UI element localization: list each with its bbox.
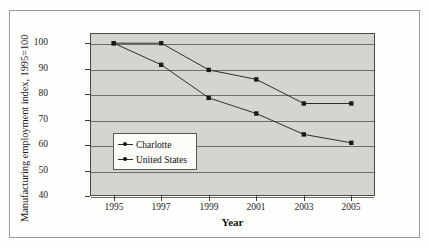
legend-marker-icon <box>118 155 133 164</box>
y-axis-tick-label: 40 <box>22 190 48 200</box>
x-axis-tick-label: 1997 <box>141 202 181 212</box>
y-axis-tick-mark <box>85 120 90 121</box>
y-axis-tick-label: 100 <box>22 37 48 47</box>
gridline <box>91 70 374 71</box>
gridline <box>91 172 374 173</box>
y-axis-tick-mark <box>85 69 90 70</box>
legend-item-charlotte: Charlotte <box>118 137 192 152</box>
gridline <box>91 121 374 122</box>
legend-item-united-states: United States <box>118 152 192 167</box>
x-axis-tick-mark <box>351 196 352 201</box>
y-axis-tick-label: 80 <box>22 88 48 98</box>
y-axis-tick-label: 60 <box>22 139 48 149</box>
x-axis-tick-label: 1995 <box>94 202 134 212</box>
y-axis-tick-mark <box>85 196 90 197</box>
x-axis-tick-mark <box>304 196 305 201</box>
legend-label: Charlotte <box>136 140 171 150</box>
figure-page: Manufacturing employment index, 1995=100… <box>0 0 429 248</box>
gridline <box>91 197 374 198</box>
x-axis-tick-mark <box>209 196 210 201</box>
y-axis-tick-label: 90 <box>22 63 48 73</box>
x-axis-tick-mark <box>161 196 162 201</box>
y-axis-tick-mark <box>85 145 90 146</box>
y-axis-tick-mark <box>85 43 90 44</box>
x-axis-tick-label: 2001 <box>236 202 276 212</box>
legend-marker-icon <box>118 140 133 149</box>
legend-label: United States <box>136 155 187 165</box>
y-axis-tick-mark <box>85 94 90 95</box>
x-axis-tick-label: 1999 <box>189 202 229 212</box>
x-axis-tick-mark <box>256 196 257 201</box>
x-axis-tick-mark <box>114 196 115 201</box>
plot-area <box>90 33 375 196</box>
x-axis-tick-label: 2005 <box>331 202 371 212</box>
chart-legend: Charlotte United States <box>113 133 197 170</box>
y-axis-tick-mark <box>85 171 90 172</box>
gridline <box>91 44 374 45</box>
x-axis-title: Year <box>90 216 375 228</box>
x-axis-tick-label: 2003 <box>284 202 324 212</box>
gridline <box>91 95 374 96</box>
y-axis-tick-label: 50 <box>22 165 48 175</box>
y-axis-tick-label: 70 <box>22 114 48 124</box>
